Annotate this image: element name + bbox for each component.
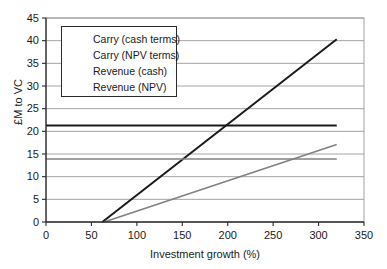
plot-area bbox=[0, 0, 387, 269]
legend-item: Carry (NPV terms) bbox=[62, 47, 176, 63]
legend-label-revenue-cash: Revenue (cash) bbox=[93, 66, 167, 77]
data-series-line-1 bbox=[104, 144, 337, 222]
legend-label-revenue-npv: Revenue (NPV) bbox=[93, 82, 167, 93]
chart-legend: Carry (cash terms) Carry (NPV terms) Rev… bbox=[61, 26, 177, 97]
legend-label-carry-cash-terms: Carry (cash terms) bbox=[93, 34, 180, 45]
legend-item: Revenue (NPV) bbox=[62, 79, 176, 95]
legend-item: Carry (cash terms) bbox=[62, 31, 176, 47]
legend-label-carry-npv-terms: Carry (NPV terms) bbox=[93, 50, 179, 61]
chart-container: £M to VC Investment growth (%) 051015202… bbox=[0, 0, 387, 269]
legend-item: Revenue (cash) bbox=[62, 63, 176, 79]
